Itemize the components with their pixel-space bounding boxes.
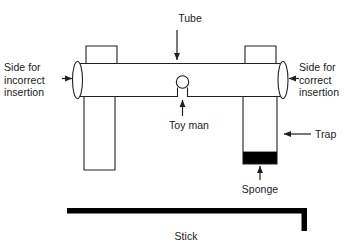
stick-horizontal-bar: [67, 208, 307, 214]
label-side-for-incorrect-insertion: Side for incorrect insertion: [4, 61, 76, 99]
label-tube: Tube: [160, 12, 220, 25]
sponge-block: [244, 152, 277, 164]
label-toy-man: Toy man: [152, 119, 226, 132]
label-stick: Stick: [158, 230, 214, 243]
label-sponge: Sponge: [224, 183, 296, 196]
label-trap: Trap: [315, 128, 359, 141]
label-side-for-correct-insertion: Side for correct insertion: [299, 61, 361, 99]
left-top-collar: [86, 46, 117, 64]
stick-vertical-end: [302, 208, 308, 231]
left-vertical-shaft: [84, 95, 115, 170]
stick-shape: [67, 208, 307, 231]
diagram-canvas: Tube Side for incorrect insertion Side f…: [0, 0, 361, 250]
right-tube-opening: [278, 62, 288, 99]
toy-man-head: [176, 76, 188, 88]
right-top-collar: [245, 46, 276, 64]
toy-man-figure: [176, 76, 188, 97]
